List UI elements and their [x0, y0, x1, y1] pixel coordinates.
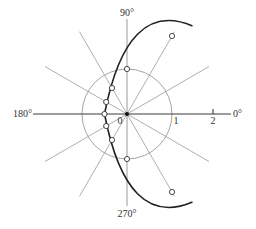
label-tick-2: 2: [211, 115, 216, 126]
polar-parabola-diagram: 90° 270° 180° 0° 0 1 2: [0, 0, 256, 229]
label-270deg: 270°: [118, 208, 137, 219]
label-90deg: 90°: [120, 7, 134, 18]
point-240deg: [109, 137, 114, 142]
point-270deg: [124, 156, 129, 161]
point-60deg: [169, 33, 174, 38]
point-300deg: [169, 189, 174, 194]
label-tick-1: 1: [174, 115, 179, 126]
point-120deg: [109, 85, 114, 90]
label-origin-0: 0: [118, 115, 123, 126]
point-210deg: [104, 123, 109, 128]
point-180deg: [102, 111, 107, 116]
point-90deg: [124, 66, 129, 71]
point-150deg: [104, 99, 109, 104]
pole-point: [125, 112, 129, 116]
label-180deg: 180°: [13, 108, 32, 119]
label-0deg: 0°: [233, 108, 242, 119]
